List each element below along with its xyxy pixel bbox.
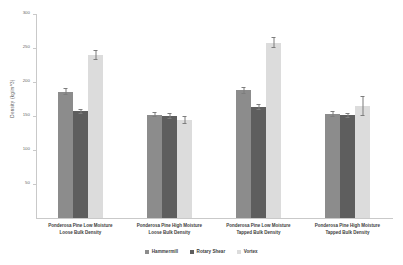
error-bar — [169, 113, 170, 118]
y-tick-mark — [33, 82, 36, 83]
error-bar — [80, 109, 81, 114]
y-tick-label: 300 — [23, 10, 30, 15]
bar-group-bars — [36, 14, 125, 218]
bar-vortex — [88, 14, 103, 218]
bar-rotary-shear — [340, 14, 355, 218]
bar-rect — [177, 120, 192, 218]
bar-group-bars — [125, 14, 214, 218]
legend-item-hammermill[interactable]: Hammermill — [145, 249, 178, 254]
y-tick-mark — [33, 48, 36, 49]
y-tick-mark — [33, 150, 36, 151]
bar-chart: Density (kg/m^3) Ponderosa Pine Low Mois… — [0, 0, 403, 265]
x-axis-category-line: Ponderosa Pine Low Moisture — [36, 222, 125, 229]
bar-hammermill — [147, 14, 162, 218]
legend-item-rotary-shear[interactable]: Rotary Shear — [190, 249, 225, 254]
bar-rect — [340, 115, 355, 218]
bar-rect — [251, 107, 266, 218]
bar-rect — [162, 116, 177, 218]
bar-vortex — [355, 14, 370, 218]
y-tick-mark — [33, 116, 36, 117]
bar-group-bars — [303, 14, 392, 218]
legend-swatch-icon — [190, 250, 194, 254]
x-axis-category-line: Tapped Bulk Density — [303, 229, 392, 236]
error-bar — [332, 111, 333, 116]
legend-swatch-icon — [145, 250, 149, 254]
x-axis-category-line: Loose Bulk Density — [125, 229, 214, 236]
error-bar — [243, 87, 244, 94]
legend-item-vortex[interactable]: Vortex — [237, 249, 257, 254]
bar-rect — [355, 106, 370, 218]
y-tick-label: 100 — [23, 146, 30, 151]
bar-group: Ponderosa Pine Low MoistureTapped Bulk D… — [214, 14, 303, 218]
bar-rect — [73, 111, 88, 218]
bar-group: Ponderosa Pine Low MoistureLoose Bulk De… — [36, 14, 125, 218]
bar-group: Ponderosa Pine High MoistureLoose Bulk D… — [125, 14, 214, 218]
bar-hammermill — [236, 14, 251, 218]
x-axis-category-line: Ponderosa Pine Low Moisture — [214, 222, 303, 229]
chart-legend: HammermillRotary ShearVortex — [0, 249, 403, 254]
bar-hammermill — [325, 14, 340, 218]
bar-hammermill — [58, 14, 73, 218]
plot-area: Ponderosa Pine Low MoistureLoose Bulk De… — [36, 14, 392, 218]
bar-rect — [325, 114, 340, 218]
bar-rect — [147, 115, 162, 218]
y-tick-label: 150 — [23, 112, 30, 117]
bar-rect — [58, 92, 73, 218]
y-tick-mark — [33, 184, 36, 185]
x-axis-category-label: Ponderosa Pine Low MoistureLoose Bulk De… — [36, 222, 125, 236]
error-bar — [362, 96, 363, 116]
error-bar — [65, 88, 66, 95]
x-axis-category-label: Ponderosa Pine High MoistureLoose Bulk D… — [125, 222, 214, 236]
x-axis-category-line: Loose Bulk Density — [36, 229, 125, 236]
x-axis-category-line: Ponderosa Pine High Moisture — [303, 222, 392, 229]
bar-vortex — [177, 14, 192, 218]
bar-rotary-shear — [162, 14, 177, 218]
legend-swatch-icon — [237, 250, 241, 254]
error-bar — [154, 112, 155, 117]
x-axis-category-label: Ponderosa Pine High MoistureTapped Bulk … — [303, 222, 392, 236]
x-axis-category-line: Ponderosa Pine High Moisture — [125, 222, 214, 229]
bar-rect — [236, 90, 251, 218]
legend-label: Hammermill — [152, 249, 178, 254]
bar-rect — [88, 55, 103, 218]
legend-label: Rotary Shear — [197, 249, 226, 254]
error-bar — [95, 50, 96, 60]
y-tick-label: 50 — [25, 180, 30, 185]
legend-label: Vortex — [244, 249, 258, 254]
bar-group: Ponderosa Pine High MoistureTapped Bulk … — [303, 14, 392, 218]
y-tick-label: 200 — [23, 78, 30, 83]
x-axis-category-line: Tapped Bulk Density — [214, 229, 303, 236]
error-bar — [273, 37, 274, 48]
error-bar — [347, 113, 348, 118]
y-tick-label: 250 — [23, 44, 30, 49]
y-tick-mark — [33, 14, 36, 15]
error-bar — [184, 116, 185, 124]
x-axis-line — [36, 218, 393, 219]
y-axis-title: Density (kg/m^3) — [10, 63, 15, 135]
bar-rect — [266, 43, 281, 218]
bar-group-bars — [214, 14, 303, 218]
x-axis-category-label: Ponderosa Pine Low MoistureTapped Bulk D… — [214, 222, 303, 236]
error-bar — [258, 104, 259, 109]
bar-rotary-shear — [251, 14, 266, 218]
bar-vortex — [266, 14, 281, 218]
bar-rotary-shear — [73, 14, 88, 218]
